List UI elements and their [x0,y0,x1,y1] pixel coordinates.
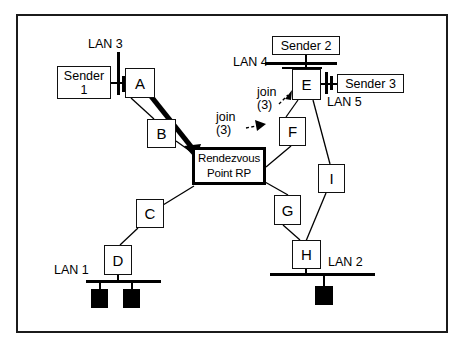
lan2-host-1 [315,286,333,305]
lan-1-label: LAN 1 [54,264,89,277]
router-b[interactable]: B [147,119,176,148]
rendezvous-point-line1: Rendezvous [198,151,260,166]
router-c[interactable]: C [136,199,164,228]
router-h[interactable]: H [292,240,321,269]
sender-1-line2: 1 [81,83,88,97]
lan-4-bus [265,62,337,65]
router-a[interactable]: A [125,68,155,98]
sender-1-drop [111,82,126,84]
router-i[interactable]: I [318,164,345,193]
sender-3-line1: Sender 3 [345,77,396,91]
router-e-label: E [301,77,311,92]
router-b-label: B [156,126,166,141]
lan-4-label: LAN 4 [233,56,268,69]
join-annotation-lower: join (3) [216,111,235,137]
router-f-label: F [288,124,297,139]
lan-5-label: LAN 5 [327,96,362,109]
sender-2-box[interactable]: Sender 2 [272,36,340,55]
router-e[interactable]: E [292,69,321,100]
lan-3-label: LAN 3 [88,38,123,51]
rendezvous-point-box[interactable]: Rendezvous Point RP [192,147,266,185]
router-g[interactable]: G [274,195,301,225]
sender-1-box[interactable]: Sender 1 [57,66,111,99]
sender-2-line1: Sender 2 [281,39,332,53]
lan1-host-1 [91,289,108,308]
router-i-label: I [329,171,333,186]
join-annotation-upper: join (3) [257,86,276,112]
router-a-label: A [135,76,145,91]
join-upper-line2: (3) [257,99,276,112]
router-f[interactable]: F [279,117,306,146]
router-d[interactable]: D [104,245,132,275]
sender-3-box[interactable]: Sender 3 [337,74,404,93]
lan-2-label: LAN 2 [328,256,363,269]
router-h-label: H [301,247,312,262]
lan1-host-2 [123,289,140,308]
lan-3-bus [117,52,120,95]
lan-2-drop-h [305,269,307,275]
router-c-label: C [145,206,156,221]
lan-1-bus [86,280,161,283]
diagram-canvas: Sender 1 Sender 2 Sender 3 A B C D E F G… [0,0,465,351]
sender-1-line1: Sender [64,69,104,83]
router-d-label: D [113,253,124,268]
lan-2-host-1-stem [323,275,325,286]
join-lower-line2: (3) [216,124,235,137]
lan-1-drop-d [117,275,119,282]
router-g-label: G [282,203,294,218]
rendezvous-point-line2: Point RP [207,166,251,181]
